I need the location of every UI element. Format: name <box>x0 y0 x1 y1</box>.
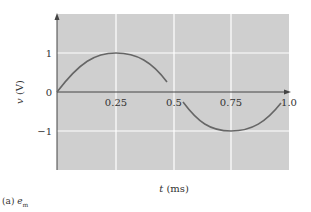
y-tick-minus-1: −1 <box>37 126 52 137</box>
x-tick-0.5: 0.5 <box>166 97 182 108</box>
chart: 0.25 0.5 0.75 1.0 1 0 −1 v (V) t (ms) <box>0 0 311 212</box>
caption-subscript: m <box>23 201 29 208</box>
x-axis-label: t (ms) <box>159 183 189 194</box>
y-tick-0: 0 <box>46 87 52 98</box>
x-tick-0.75: 0.75 <box>220 97 242 108</box>
figure-caption: (a) em <box>2 196 28 208</box>
x-tick-1.0: 1.0 <box>281 97 297 108</box>
y-tick-1: 1 <box>46 48 52 59</box>
y-axis-label: v (V) <box>14 80 25 104</box>
caption-prefix: (a) <box>2 196 14 206</box>
svg-text:v (V): v (V) <box>14 80 25 104</box>
x-tick-0.25: 0.25 <box>105 97 127 108</box>
